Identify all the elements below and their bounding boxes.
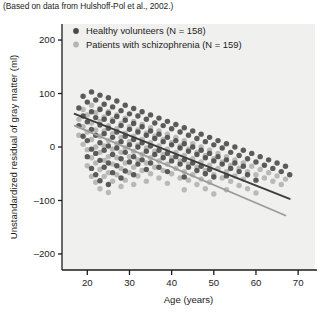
y-axis: 2001000–100–200 xyxy=(34,24,62,270)
data-point xyxy=(152,136,157,141)
data-point xyxy=(283,176,288,181)
data-point xyxy=(127,111,132,116)
legend-label: Patients with schizophrenia (N = 159) xyxy=(86,39,242,50)
data-point xyxy=(156,165,161,170)
data-point xyxy=(236,153,241,158)
data-point xyxy=(106,160,111,165)
data-point xyxy=(123,118,128,123)
data-point xyxy=(127,142,132,147)
data-point xyxy=(257,154,262,159)
data-point xyxy=(144,133,149,138)
data-point xyxy=(253,177,258,182)
data-point xyxy=(287,172,292,177)
data-point xyxy=(169,126,174,131)
data-point xyxy=(190,128,195,133)
data-point xyxy=(76,105,81,110)
data-point xyxy=(97,107,102,112)
data-point xyxy=(224,157,229,162)
data-point xyxy=(101,174,106,179)
data-point xyxy=(114,163,119,168)
x-axis-tick-label: 30 xyxy=(124,277,135,288)
data-point xyxy=(253,190,258,195)
data-point xyxy=(139,124,144,129)
data-point xyxy=(152,120,157,125)
x-axis-tick-label: 40 xyxy=(166,277,177,288)
data-point xyxy=(211,191,216,196)
data-point xyxy=(89,109,94,114)
data-point xyxy=(131,172,136,177)
data-point xyxy=(127,127,132,132)
data-point xyxy=(279,169,284,174)
data-point xyxy=(110,170,115,175)
data-point xyxy=(228,179,233,184)
data-point xyxy=(245,172,250,177)
legend-marker xyxy=(73,42,79,48)
data-point xyxy=(241,148,246,153)
data-point xyxy=(110,152,115,157)
data-point xyxy=(165,181,170,186)
data-point xyxy=(220,145,225,150)
data-point xyxy=(177,129,182,134)
data-point xyxy=(156,131,161,136)
data-point xyxy=(101,165,106,170)
data-point xyxy=(97,140,102,145)
data-point xyxy=(148,128,153,133)
data-point xyxy=(97,158,102,163)
data-point xyxy=(245,156,250,161)
data-point xyxy=(135,113,140,118)
data-point xyxy=(93,151,98,156)
data-point xyxy=(169,142,174,147)
data-point xyxy=(283,164,288,169)
data-point xyxy=(228,150,233,155)
data-point xyxy=(106,143,111,148)
data-point xyxy=(253,172,258,177)
data-point xyxy=(93,97,98,102)
data-point xyxy=(215,154,220,159)
data-point xyxy=(85,154,90,159)
data-point xyxy=(118,156,123,161)
data-point xyxy=(106,190,111,195)
data-point xyxy=(203,171,208,176)
data-point xyxy=(135,144,140,149)
data-point xyxy=(80,134,85,139)
legend-label: Healthy volunteers (N = 158) xyxy=(86,25,206,36)
data-point xyxy=(118,108,123,113)
data-point xyxy=(106,95,111,100)
data-point xyxy=(211,142,216,147)
data-point xyxy=(148,171,153,176)
data-point xyxy=(262,175,267,180)
data-point xyxy=(186,165,191,170)
data-point xyxy=(131,121,136,126)
data-point xyxy=(232,144,237,149)
data-point xyxy=(173,138,178,143)
data-point xyxy=(173,122,178,127)
data-point xyxy=(207,135,212,140)
data-point xyxy=(156,115,161,120)
data-point xyxy=(118,123,123,128)
data-point xyxy=(97,92,102,97)
data-point xyxy=(215,138,220,143)
y-axis-tick-label: 0 xyxy=(50,141,55,152)
data-point xyxy=(85,99,90,104)
data-point xyxy=(89,146,94,151)
data-point xyxy=(114,98,119,103)
data-point xyxy=(203,186,208,191)
plot-container: 2001000–100–200 203040506070 Healthy vol… xyxy=(0,14,328,318)
data-point xyxy=(127,159,132,164)
data-point xyxy=(139,109,144,114)
data-point xyxy=(274,173,279,178)
data-point xyxy=(257,167,262,172)
data-point xyxy=(270,166,275,171)
data-point xyxy=(169,158,174,163)
data-point xyxy=(266,157,271,162)
data-point xyxy=(161,155,166,160)
data-point xyxy=(80,94,85,99)
data-point xyxy=(203,155,208,160)
data-point xyxy=(161,139,166,144)
data-point xyxy=(274,160,279,165)
data-point xyxy=(106,111,111,116)
x-axis-tick-label: 20 xyxy=(82,277,93,288)
data-point xyxy=(97,186,102,191)
x-axis-title: Age (years) xyxy=(164,294,214,305)
data-point xyxy=(135,129,140,134)
